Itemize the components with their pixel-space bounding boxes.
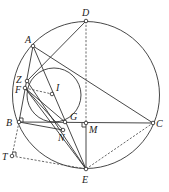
label-t: T xyxy=(2,151,9,162)
segment-bt xyxy=(12,122,19,156)
label-i: I xyxy=(55,82,60,93)
segment-te xyxy=(12,156,86,169)
point-g xyxy=(63,120,67,124)
point-i xyxy=(50,92,54,96)
point-b xyxy=(17,120,21,124)
label-m: M xyxy=(88,124,98,135)
label-c: C xyxy=(156,118,163,129)
segment-fg xyxy=(25,88,65,122)
point-e xyxy=(84,167,88,171)
label-d: D xyxy=(81,7,90,18)
label-f: F xyxy=(14,84,22,95)
point-f xyxy=(23,86,27,90)
point-z xyxy=(25,79,29,83)
label-e: E xyxy=(81,174,88,185)
point-a xyxy=(31,44,35,48)
segment-ac xyxy=(33,46,153,123)
point-m xyxy=(84,121,88,125)
label-n: N xyxy=(57,132,66,143)
label-z: Z xyxy=(16,74,22,85)
segment-dz xyxy=(27,21,86,81)
label-g: G xyxy=(70,111,77,122)
label-b: B xyxy=(6,117,12,128)
point-d xyxy=(84,19,88,23)
point-t xyxy=(10,154,14,158)
label-a: A xyxy=(24,34,32,45)
geometry-diagram: A B C D E F G I M N T Z xyxy=(0,0,169,192)
point-c xyxy=(151,121,155,125)
